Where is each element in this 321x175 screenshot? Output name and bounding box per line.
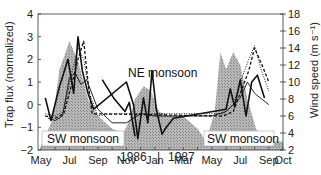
year-1986: 1986 <box>120 150 147 164</box>
left-tick-label: 2 <box>27 53 33 65</box>
left-tick-label: 0 <box>27 99 33 111</box>
x-tick-label: May <box>31 154 52 166</box>
left-axis-title: Trap flux (normalized) <box>3 21 15 128</box>
x-tick-label: Jul <box>62 154 76 166</box>
left-tick-label: 4 <box>27 8 33 20</box>
left-tick-label: 1 <box>27 76 33 88</box>
year-1987: 1987 <box>168 150 195 164</box>
x-tick-label: May <box>201 154 222 166</box>
sw-monsoon-label-2: SW monsoon <box>207 132 279 146</box>
left-tick-label: −1 <box>20 121 33 133</box>
x-tick-label: Sep <box>88 154 108 166</box>
right-tick-label: 16 <box>288 25 300 37</box>
x-tick-label: Jan <box>146 154 164 166</box>
sw-monsoon-label-1: SW monsoon <box>47 132 119 146</box>
right-tick-label: 6 <box>288 110 294 122</box>
right-tick-label: 10 <box>288 76 300 88</box>
right-tick-label: 12 <box>288 59 300 71</box>
x-tick-label: Jul <box>233 154 247 166</box>
left-tick-label: 3 <box>27 31 33 43</box>
right-tick-label: 14 <box>288 42 300 54</box>
right-tick-label: 18 <box>288 8 300 20</box>
ne-monsoon-label: NE monsoon <box>128 66 197 80</box>
chart: −2−101234 24681012141618 MayJulSepNovJan… <box>0 0 321 175</box>
x-tick-label: Oct <box>274 154 291 166</box>
right-tick-label: 4 <box>288 127 294 139</box>
right-tick-label: 8 <box>288 93 294 105</box>
year-separator: | <box>157 150 160 164</box>
right-axis-title: Wind speed (m s⁻¹) <box>308 22 320 118</box>
